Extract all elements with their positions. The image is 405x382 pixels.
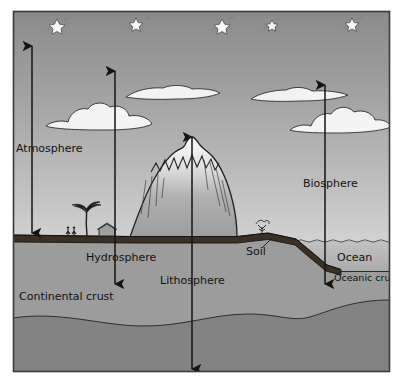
label-hydrosphere: Hydrosphere [86,251,157,264]
label-atmosphere: Atmosphere [16,142,83,155]
scene-group: Atmosphere Hydrosphere Lithosphere Soil … [13,11,399,372]
label-biosphere: Biosphere [303,177,358,190]
label-continental-crust: Continental crust [19,290,114,303]
label-soil: Soil [246,245,266,258]
diagram-canvas: Atmosphere Hydrosphere Lithosphere Soil … [0,0,405,382]
earth-spheres-diagram: Atmosphere Hydrosphere Lithosphere Soil … [0,0,405,382]
label-ocean: Ocean [337,251,372,264]
label-lithosphere: Lithosphere [160,274,225,287]
